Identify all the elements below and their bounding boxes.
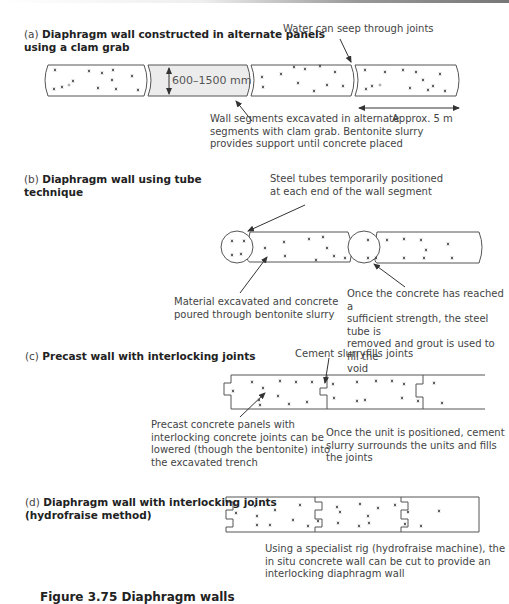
panel-b-title-line1: Diaphragm wall using tube bbox=[42, 173, 202, 185]
note-approx-length: Approx. 5 m bbox=[392, 113, 453, 126]
note-material-excavated: Material excavated and concrete poured t… bbox=[174, 296, 338, 321]
note-unit-line3: the joints bbox=[326, 452, 373, 463]
note-material-line1: Material excavated and concrete bbox=[174, 296, 338, 307]
note-unit-line1: Once the unit is positioned, cement bbox=[326, 427, 505, 438]
panel-d-title-line1: Diaphragm wall with interlocking joints bbox=[43, 496, 277, 508]
note-material-line2: poured through bentonite slurry bbox=[174, 309, 334, 320]
note-grout-line2: sufficient strength, the steel tube is bbox=[347, 313, 488, 337]
note-steel-tubes-line2: at each end of the wall segment bbox=[270, 186, 432, 197]
panel-b-heading: (b) Diaphragm wall using tube technique bbox=[24, 173, 202, 199]
panel-a-title-line2: using a clam grab bbox=[24, 41, 130, 53]
panel-c-label: (c) bbox=[25, 350, 39, 362]
panel-a-heading: (a) Diaphragm wall constructed in altern… bbox=[24, 28, 325, 54]
panel-c-heading: (c) Precast wall with interlocking joint… bbox=[25, 350, 255, 363]
note-wall-segments-line1: Wall segments excavated in alternate bbox=[210, 113, 399, 124]
note-precast-line1: Precast concrete panels with bbox=[151, 419, 295, 430]
note-precast-line4: the excavated trench bbox=[151, 457, 258, 468]
note-grout-fill: Once the concrete has reached a sufficie… bbox=[347, 288, 509, 376]
note-precast-line3: lowered (though the bentonite) into bbox=[151, 444, 330, 455]
panel-b-title-line2: technique bbox=[24, 186, 83, 198]
note-hydrofraise-rig: Using a specialist rig (hydrofraise mach… bbox=[265, 543, 505, 581]
note-rig-line3: interlocking diaphragm wall bbox=[265, 568, 404, 579]
panel-c-wall bbox=[224, 375, 485, 409]
note-steel-tubes-line1: Steel tubes temporarily positioned bbox=[270, 173, 443, 184]
panel-c-leaders bbox=[240, 358, 329, 417]
panel-c-aggregate bbox=[232, 380, 443, 407]
figure-caption: Figure 3.75 Diaphragm walls bbox=[40, 590, 235, 604]
note-rig-line1: Using a specialist rig (hydrofraise mach… bbox=[265, 543, 505, 554]
panel-b-label: (b) bbox=[24, 173, 39, 185]
note-precast-line2: interlocking concrete joints can be bbox=[151, 432, 324, 443]
note-unit-positioned: Once the unit is positioned, cement slur… bbox=[326, 427, 505, 465]
note-precast-panels: Precast concrete panels with interlockin… bbox=[151, 419, 330, 469]
panel-a-label: (a) bbox=[24, 28, 39, 40]
note-wall-segments-line2: segments with clam grab. Bentonite slurr… bbox=[210, 126, 423, 137]
panel-c-title: Precast wall with interlocking joints bbox=[42, 350, 255, 362]
note-wall-segments-line3: provides support until concrete placed bbox=[210, 138, 403, 149]
note-unit-line2: slurry surrounds the units and fills bbox=[326, 440, 497, 451]
panel-d-heading: (d) Diaphragm wall with interlocking joi… bbox=[25, 496, 277, 522]
note-water-seep: Water can seep through joints bbox=[283, 23, 434, 36]
panel-b-wall bbox=[221, 231, 482, 263]
note-grout-line1: Once the concrete has reached a bbox=[347, 288, 504, 312]
note-rig-line2: in situ concrete wall can be cut to prov… bbox=[265, 556, 491, 567]
panel-d-title-line2: (hydrofraise method) bbox=[25, 509, 152, 521]
note-cement-slurry: Cement slurryfills joints bbox=[295, 348, 413, 361]
note-grout-line4: void bbox=[347, 363, 368, 374]
note-steel-tubes: Steel tubes temporarily positioned at ea… bbox=[270, 173, 443, 198]
panel-d-label: (d) bbox=[25, 496, 40, 508]
dimension-label: 600–1500 mm bbox=[172, 75, 251, 88]
